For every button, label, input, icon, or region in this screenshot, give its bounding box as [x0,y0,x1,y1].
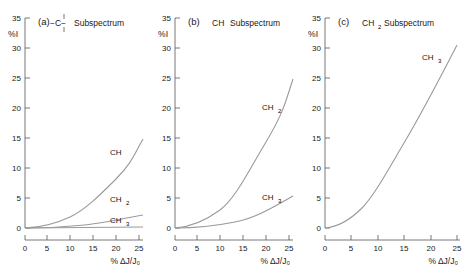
panel-b-ytick-15: 15 [162,134,171,143]
panel-a-xtick-20: 20 [112,244,121,253]
panel-a-ytick-15: 15 [12,134,21,143]
panel-b-letter: (b) [188,16,200,27]
panel-c-curve-ch3 [325,45,457,228]
panel-b-label-ch2: CH 2 [262,103,282,114]
panel-c-xtick-20: 20 [427,244,436,253]
panel-a-xtick-25: 25 [135,244,144,253]
panel-c-ytick-10: 10 [312,164,321,173]
panel-c-title-formula: CH [362,18,374,28]
subspectra-figure: 0 5 10 15 20 25 30 35 0 5 10 15 20 25 [0,0,466,266]
panel-b-xtick-25: 25 [285,244,294,253]
panel-c-xtick-0: 0 [323,244,328,253]
panel-b-y-ticks [175,18,180,228]
panel-c-label-ch3-text: CH [422,53,434,62]
panel-c-label-ch3-sub: 3 [438,58,442,64]
panel-c-xtick-10: 10 [374,244,383,253]
panel-c-xtick-15: 15 [400,244,409,253]
panel-a-title-formula: −C− [50,18,66,28]
panel-b-xtick-15: 15 [239,244,248,253]
panel-c-ytick-30: 30 [312,44,321,53]
panel-b-x-axis-label: % ΔJ/J₀ [260,256,290,266]
panel-b-title-text: Subspectrum [230,18,280,28]
panel-a-y-ticks [25,18,30,228]
panel-a-ytick-10: 10 [12,164,21,173]
panel-b-ytick-25: 25 [162,74,171,83]
panel-b: 0 5 10 15 20 25 30 35 0 5 10 15 20 25 %I… [150,0,300,266]
panel-b-plot: 0 5 10 15 20 25 30 35 0 5 10 15 20 25 %I… [150,0,300,266]
panel-b-y-axis-label: %I [158,29,168,39]
panel-c-title: CH 2 Subspectrum [362,18,434,30]
panel-b-curve-ch3 [175,196,293,228]
panel-c-xtick-5: 5 [349,244,354,253]
panel-a-ytick-20: 20 [12,104,21,113]
panel-c-ytick-20: 20 [312,104,321,113]
panel-b-ytick-20: 20 [162,104,171,113]
panel-b-title: CH Subspectrum [212,18,280,28]
panel-a-title: −C− Subspectrum [50,14,124,32]
panel-a-xtick-5: 5 [45,244,50,253]
panel-c-xtick-25: 25 [453,244,462,253]
panel-a-label-ch3-text: CH [110,216,122,225]
panel-a-ytick-0: 0 [17,224,22,233]
panel-c-ytick-0: 0 [317,224,322,233]
panel-a-title-text: Subspectrum [74,18,124,28]
panel-a-label-ch3-sub: 3 [126,221,130,227]
panel-c-ytick-25: 25 [312,74,321,83]
panel-c-x-axis-label: % ΔJ/J₀ [428,256,458,266]
panel-b-ytick-5: 5 [167,194,172,203]
panel-b-xtick-5: 5 [195,244,200,253]
panel-b-ytick-0: 0 [167,224,172,233]
panel-a-label-ch2-sub: 2 [126,200,130,206]
panel-c-label-ch3: CH 3 [422,53,442,64]
panel-a-curve-ch [25,139,143,228]
panel-c-ytick-35: 35 [312,14,321,23]
panel-a-x-ticks [25,235,139,240]
panel-a-label-ch2-text: CH [110,195,122,204]
panel-b-ytick-35: 35 [162,14,171,23]
panel-c-y-axis-label: %I [308,29,318,39]
panel-c: 0 5 10 15 20 25 30 35 0 5 10 15 20 25 %I… [300,0,466,266]
panel-a-xtick-15: 15 [89,244,98,253]
panel-c-y-ticks [325,18,330,228]
panel-a-label-ch: CH [110,148,122,157]
panel-b-x-ticks [175,235,289,240]
panel-a-x-axis-label: % ΔJ/J₀ [110,256,140,266]
panel-a-y-axis-label: %I [8,29,18,39]
panel-b-xtick-20: 20 [262,244,271,253]
panel-b-title-formula: CH [212,18,224,28]
panel-b-label-ch2-text: CH [262,103,274,112]
panel-c-letter: (c) [338,16,349,27]
panel-a-ytick-30: 30 [12,44,21,53]
panel-c-ytick-15: 15 [312,134,321,143]
panel-b-ytick-30: 30 [162,44,171,53]
panel-a-ytick-35: 35 [12,14,21,23]
panel-a-letter: (a) [38,16,50,27]
panel-a-ytick-5: 5 [17,194,22,203]
panel-c-title-formula-sub: 2 [378,24,382,30]
panel-c-ytick-5: 5 [317,194,322,203]
panel-a-xtick-0: 0 [23,244,28,253]
panel-a-ytick-25: 25 [12,74,21,83]
panel-b-xtick-0: 0 [173,244,178,253]
panel-b-label-ch3: CH 3 [262,193,282,204]
panel-c-plot: 0 5 10 15 20 25 30 35 0 5 10 15 20 25 %I… [300,0,466,266]
panel-b-label-ch3-text: CH [262,193,274,202]
panel-c-title-text: Subspectrum [384,18,434,28]
panel-c-x-ticks [325,235,457,240]
panel-a-label-ch2: CH 2 [110,195,130,206]
panel-b-xtick-10: 10 [216,244,225,253]
panel-a: 0 5 10 15 20 25 30 35 0 5 10 15 20 25 [0,0,155,266]
panel-a-curve-ch3 [25,227,143,228]
panel-a-xtick-10: 10 [66,244,75,253]
panel-a-plot: 0 5 10 15 20 25 30 35 0 5 10 15 20 25 [0,0,155,266]
panel-b-ytick-10: 10 [162,164,171,173]
